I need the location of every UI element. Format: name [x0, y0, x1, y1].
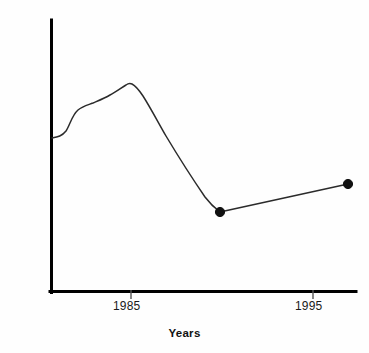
data-point-marker-1996: [343, 179, 352, 188]
series-line-war-toys: [52, 84, 348, 212]
x-tick-label-1995: 1995: [295, 299, 323, 313]
x-tick-label-1985: 1985: [113, 299, 141, 313]
chart-container: 1985 1995 Years Number of war toys purch…: [0, 0, 369, 353]
x-axis-title: Years: [0, 327, 369, 339]
data-point-marker-1991: [215, 207, 224, 216]
